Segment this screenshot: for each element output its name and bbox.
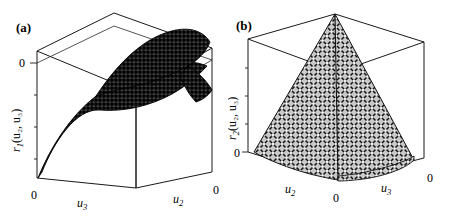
panel-b: (b) 0 r2(u₂, u₃) u2 0 u3 [228,0,455,218]
panel-b-tag: (b) [236,18,252,33]
panel-b-center-origin-tick: 0 [333,191,339,205]
panel-b-left-axis-label: u2 [285,182,296,198]
panel-a-left-origin-tick: 0 [31,188,37,202]
panel-a-z-tick-zero: 0 [19,56,25,70]
panel-b-surface [254,14,414,181]
panel-b-zlabel: r2(u₂, u₃) [228,97,241,140]
panel-a-left-axis-label: u3 [77,196,87,212]
panel-b-z-tick-zero: 0 [234,146,240,160]
panel-b-right-axis-label: u3 [381,181,391,197]
panel-a-surface [38,29,212,178]
panel-a-zlabel-args: (u₂, u₃) [9,109,23,143]
panel-b-zlabel-args: (u₂, u₃) [228,97,239,131]
panel-b-svg: (b) 0 r2(u₂, u₃) u2 0 u3 [228,0,455,218]
panel-a-zlabel: r1(u₂, u₃) [9,109,25,152]
svg-text:r1(u₂, u₃): r1(u₂, u₃) [9,109,25,152]
figure-container: (a) 0 r1(u₂, u₃) 0 u3 u2 [0,0,455,218]
panel-a-right-axis-label: u2 [173,192,184,208]
panel-a-tag: (a) [16,20,31,35]
svg-text:r2(u₂, u₃): r2(u₂, u₃) [228,97,241,140]
panel-a-right-origin-tick: 0 [213,183,219,197]
panel-b-right-origin-tick: 0 [427,171,433,185]
panel-a-svg: (a) 0 r1(u₂, u₃) 0 u3 u2 [0,0,228,218]
panel-a: (a) 0 r1(u₂, u₃) 0 u3 u2 [0,0,228,218]
